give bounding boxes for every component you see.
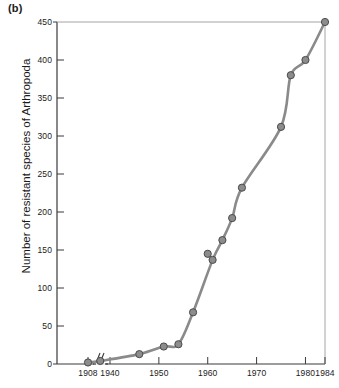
data-point-1938	[97, 357, 104, 364]
data-point-1984	[321, 18, 328, 25]
data-point-1977	[287, 72, 294, 79]
data-point-1967	[238, 184, 245, 191]
data-point-1961	[209, 256, 216, 263]
data-point-1954	[175, 341, 182, 348]
data-point-1946	[136, 351, 143, 358]
data-point-1980	[302, 56, 309, 63]
data-point-1975	[277, 123, 284, 130]
data-point-1965	[229, 214, 236, 221]
data-point-1963	[219, 237, 226, 244]
data-point-1908	[84, 359, 91, 366]
line-chart-plot	[0, 0, 339, 388]
figure-panel-b: (b) Number of resistant species of Arthr…	[0, 0, 339, 388]
data-point-1960	[204, 250, 211, 257]
data-point-1951	[160, 343, 167, 350]
data-point-1957	[189, 309, 196, 316]
